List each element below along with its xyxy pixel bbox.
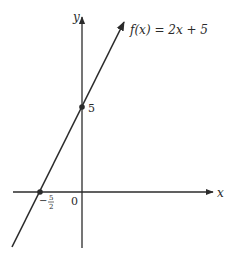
origin-label: 0 <box>71 195 78 208</box>
y-intercept-label: 5 <box>88 102 95 115</box>
y-axis-label: y <box>72 10 80 24</box>
x-intercept-numerator: 5 <box>49 194 53 202</box>
x-intercept-label: − 5 2 <box>39 194 54 211</box>
function-label: f(x) = 2x + 5 <box>129 23 208 37</box>
y-intercept-point <box>79 104 85 110</box>
x-axis-label: x <box>217 186 224 200</box>
function-line <box>12 22 124 247</box>
function-graph: y x f(x) = 2x + 5 5 0 − 5 2 <box>0 0 235 266</box>
x-intercept-point <box>37 189 43 195</box>
x-intercept-sign: − <box>39 195 47 206</box>
x-intercept-denominator: 2 <box>49 203 53 211</box>
